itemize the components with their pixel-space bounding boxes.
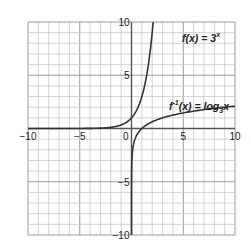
log-function-label: f-1(x) = log3x: [169, 99, 230, 114]
x-tick-label: −10: [20, 131, 37, 142]
origin-label: 0: [123, 131, 129, 142]
exp-function-label: f(x) = 3x: [182, 31, 221, 44]
x-tick-label: 10: [229, 131, 241, 142]
y-tick-label: −5: [118, 177, 130, 188]
x-tick-label: 5: [180, 131, 186, 142]
y-tick-label: 5: [124, 70, 130, 81]
y-tick-label: 10: [118, 17, 130, 28]
y-tick-label: −10: [113, 230, 130, 241]
function-graph: −10−5510105−5−100 f(x) = 3x f-1(x) = log…: [0, 0, 251, 251]
x-tick-label: −5: [74, 131, 86, 142]
